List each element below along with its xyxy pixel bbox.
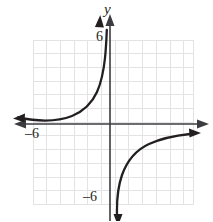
graph-figure: y 6 –6 –6 (0, 0, 213, 221)
curve-lower-right-branch (114, 129, 202, 222)
coordinate-plane-svg (0, 0, 213, 221)
curve-right-arrowhead (189, 129, 201, 138)
curve-down-arrowhead (114, 214, 123, 221)
x-axis-tick-label-negative-6: –6 (25, 127, 39, 141)
grid-lines (33, 40, 193, 205)
y-axis-tick-label-6: 6 (96, 30, 103, 44)
y-axis-tick-label-negative-6: –6 (83, 190, 97, 204)
x-axis-right-arrowhead (197, 120, 209, 129)
curve-left-arrowhead (13, 114, 25, 123)
y-axis-label: y (104, 2, 111, 17)
